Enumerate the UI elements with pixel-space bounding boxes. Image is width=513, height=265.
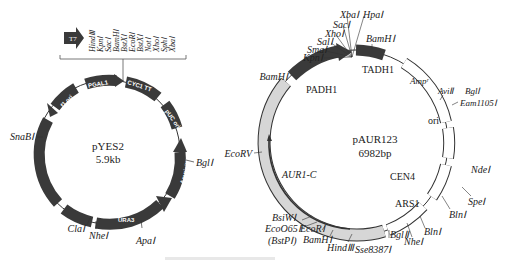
paur123-size: 6982bp <box>359 147 393 159</box>
site-nhei: NheⅠ <box>88 230 109 241</box>
site-ecoo65i: EcoO65Ⅰ <box>264 223 302 234</box>
paur123-name: pAUR123 <box>352 133 398 145</box>
ampicillin-arrowhead-icon <box>173 138 187 152</box>
feature-tadh1 <box>356 50 384 55</box>
feature-2mu-ori <box>39 120 58 203</box>
label-padh1: PADH1 <box>306 84 337 95</box>
label-ura3: URA3 <box>118 217 135 223</box>
site-sse8387i: Sse8387Ⅰ <box>355 244 392 255</box>
mcs-site-labels: HindⅢ KpnⅠ SacⅠ BamHⅠ BstXⅠ EcoRⅠ BstXⅠ … <box>88 28 177 53</box>
feature-ori <box>448 128 449 158</box>
site-bamhi-bottom: BamHⅠ <box>303 234 333 245</box>
pyes2-map: T7 HindⅢ KpnⅠ SacⅠ BamHⅠ BstXⅠ EcoRⅠ Bst… <box>10 27 214 246</box>
label-2mu-ori: 2μ ori <box>59 158 68 175</box>
site-apai: ApaⅠ <box>135 235 156 246</box>
site-ndei: NdeⅠ <box>470 164 491 175</box>
label-ars1: ARS1 <box>395 198 419 209</box>
site-spei: SpeⅠ <box>468 196 486 207</box>
pyes2-name: pYES2 <box>92 140 124 152</box>
feature-ampicillin <box>170 152 180 196</box>
label-aur1c: AUR1-C <box>281 169 317 180</box>
site-clai: ClaⅠ <box>68 223 86 234</box>
site-bamhi-left: BamHⅠ <box>259 71 289 82</box>
site-xbai: XbaⅠ <box>168 35 177 53</box>
feature-ars1 <box>388 206 423 230</box>
site-bgli: BglⅠ <box>196 157 214 168</box>
pyes2-size: 5.9kb <box>96 153 121 165</box>
t7-label: T7 <box>69 35 77 43</box>
site-bsiwi: BsiWⅠ <box>272 212 297 223</box>
site-ecori: EcoRⅠ <box>299 223 326 234</box>
site-kpni: KpnⅠ <box>302 52 324 63</box>
site-eam1105i: Eam1105Ⅰ <box>459 98 498 108</box>
site-blni-2: BlnⅠ <box>424 226 442 237</box>
site-ecorv: EcoRV <box>223 148 253 159</box>
site-bamhi-top: BamHⅠ <box>366 33 396 44</box>
site-aviii: AviⅡ <box>437 86 455 96</box>
paur123-map: PADH1 TADH1 Ampʳ ori CEN4 ARS1 AUR1-C pA… <box>223 9 497 255</box>
figure-caption <box>165 257 275 260</box>
label-ampr: Ampʳ <box>409 76 429 86</box>
site-snabi: SnaBⅠ <box>10 131 35 142</box>
label-ori: ori <box>428 115 439 126</box>
site-bglii: BglⅡ <box>390 229 410 240</box>
pgal1-arrowhead-icon <box>114 74 124 87</box>
site-bgli: BglⅠ <box>465 86 481 96</box>
site-hpai: HpaⅠ <box>362 9 384 20</box>
label-tadh1: TADH1 <box>362 64 394 75</box>
site-bstpi: (BstPⅠ) <box>268 235 297 247</box>
site-blni-1: BlnⅠ <box>449 209 467 220</box>
label-cen4: CEN4 <box>390 171 415 182</box>
plasmid-diagram: T7 HindⅢ KpnⅠ SacⅠ BamHⅠ BstXⅠ EcoRⅠ Bst… <box>0 0 513 265</box>
